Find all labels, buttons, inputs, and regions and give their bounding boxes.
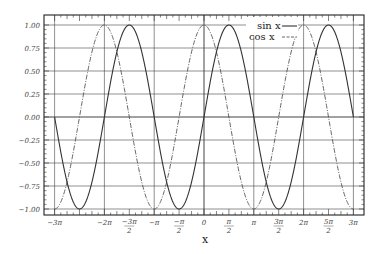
svg-text:3π: 3π: [349, 219, 358, 227]
x-tick-label: 3π2: [274, 218, 284, 235]
x-tick-label: −2π: [97, 219, 112, 227]
svg-text:2: 2: [176, 227, 182, 235]
legend-sin-label: sin x: [257, 20, 281, 31]
y-tick-label: 0.50: [24, 68, 40, 76]
y-tick-label: 0.25: [24, 91, 40, 99]
svg-text:2π: 2π: [298, 219, 308, 227]
y-tick-label: 0.00: [24, 114, 40, 122]
y-axis-labels: 1.000.750.500.250.00−0.25−0.50−0.75−1.00: [19, 22, 41, 214]
y-tick-label: −1.00: [19, 206, 41, 214]
svg-text:π: π: [250, 219, 256, 227]
svg-text:−3π: −3π: [47, 219, 62, 227]
svg-text:π: π: [226, 218, 232, 226]
y-tick-label: −0.25: [19, 137, 41, 145]
x-tick-label: 3π: [349, 219, 358, 227]
svg-text:−π: −π: [174, 218, 185, 226]
x-tick-label: 5π2: [324, 218, 334, 235]
y-tick-label: −0.50: [19, 160, 41, 168]
svg-text:−2π: −2π: [97, 219, 112, 227]
x-tick-label: 0: [202, 219, 207, 227]
legend-cos-label: cos x: [249, 31, 275, 42]
svg-text:2: 2: [226, 227, 232, 235]
svg-text:−π: −π: [149, 219, 160, 227]
x-tick-label: −π: [149, 219, 160, 227]
svg-text:2: 2: [126, 227, 132, 235]
x-tick-label: 2π: [298, 219, 308, 227]
y-tick-label: 1.00: [24, 22, 40, 30]
x-tick-label: π: [250, 219, 256, 227]
x-axis-title: x: [202, 233, 209, 246]
x-tick-label: π2: [224, 218, 234, 235]
svg-text:3π: 3π: [274, 218, 283, 226]
svg-text:5π: 5π: [324, 218, 333, 226]
svg-text:0: 0: [202, 219, 207, 227]
svg-text:−3π: −3π: [122, 218, 137, 226]
svg-text:2: 2: [325, 227, 331, 235]
legend: sin x cos x: [246, 17, 298, 42]
x-tick-label: −3π: [47, 219, 62, 227]
y-tick-label: 0.75: [24, 45, 40, 53]
svg-text:2: 2: [275, 227, 281, 235]
x-tick-label: −π2: [174, 218, 185, 235]
y-tick-label: −0.75: [19, 183, 41, 191]
chart: 1.000.750.500.250.00−0.25−0.50−0.75−1.00…: [0, 0, 383, 254]
x-tick-label: −3π2: [122, 218, 137, 235]
